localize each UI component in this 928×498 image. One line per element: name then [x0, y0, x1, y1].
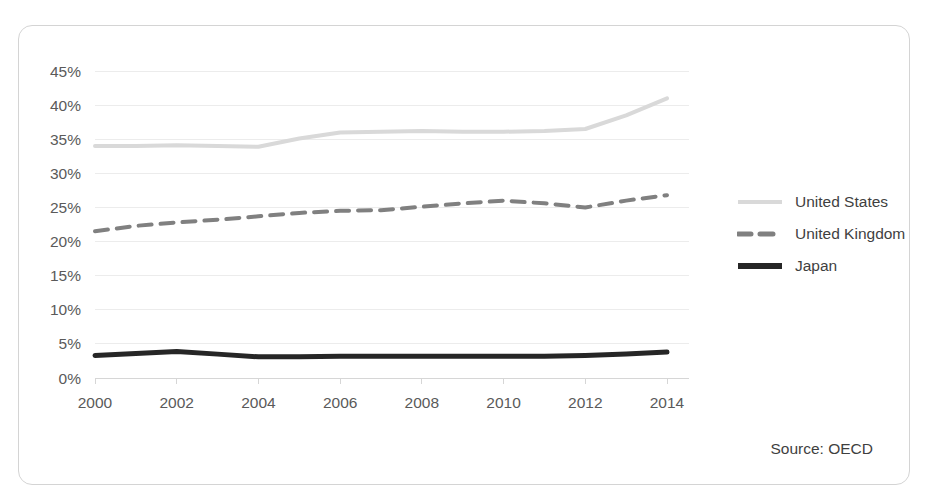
- gridlines: [95, 71, 689, 378]
- x-axis-tick-label: 2004: [241, 394, 276, 411]
- y-axis-tick-label: 15%: [50, 267, 81, 284]
- y-axis-tick-label: 25%: [50, 199, 81, 216]
- legend-label-united-states: United States: [795, 193, 888, 211]
- chart-card: 0%5%10%15%20%25%30%35%40%45% 20002002200…: [18, 25, 910, 485]
- legend-item-united-kingdom: United Kingdom: [737, 218, 909, 250]
- series-line-japan: [95, 351, 667, 356]
- y-axis-tick-label: 5%: [59, 335, 82, 352]
- legend-item-united-states: United States: [737, 186, 909, 218]
- y-axis-tick-labels: 0%5%10%15%20%25%30%35%40%45%: [50, 63, 81, 387]
- legend-swatch-united-states: [737, 196, 783, 208]
- x-axis-tick-label: 2002: [159, 394, 193, 411]
- x-axis-tick-label: 2014: [650, 394, 685, 411]
- series-line-united-kingdom: [95, 195, 667, 231]
- legend-swatch-united-kingdom: [737, 228, 783, 240]
- legend-label-united-kingdom: United Kingdom: [795, 225, 905, 243]
- source-note: Source: OECD: [770, 440, 873, 458]
- axis-lines: [95, 378, 689, 384]
- data-series-group: [95, 98, 667, 357]
- y-axis-tick-label: 30%: [50, 165, 81, 182]
- legend-item-japan: Japan: [737, 250, 909, 282]
- chart-legend: United States United Kingdom Japan: [737, 186, 909, 282]
- y-axis-tick-label: 0%: [59, 370, 82, 387]
- legend-label-japan: Japan: [795, 257, 837, 275]
- x-axis-tick-labels: 20002002200420062008201020122014: [78, 394, 685, 411]
- y-axis-tick-label: 20%: [50, 233, 81, 250]
- x-axis-tick-label: 2010: [486, 394, 521, 411]
- y-axis-tick-label: 40%: [50, 97, 81, 114]
- y-axis-tick-label: 35%: [50, 131, 81, 148]
- legend-swatch-japan: [737, 260, 783, 272]
- x-axis-tick-label: 2008: [405, 394, 439, 411]
- x-axis-tick-label: 2006: [323, 394, 357, 411]
- y-axis-tick-label: 45%: [50, 63, 81, 80]
- x-axis-tick-label: 2012: [568, 394, 602, 411]
- x-axis-tick-label: 2000: [78, 394, 113, 411]
- y-axis-tick-label: 10%: [50, 301, 81, 318]
